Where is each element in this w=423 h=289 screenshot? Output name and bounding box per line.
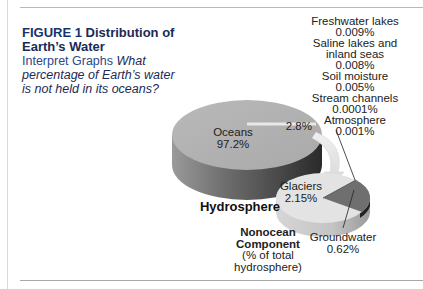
groundwater-label: Groundwater 0.62% (305, 232, 381, 255)
oceans-value: 97.2% (208, 139, 258, 151)
groundwater-name: Groundwater (305, 232, 381, 244)
groundwater-value: 0.62% (305, 244, 381, 256)
minor-components-legend: Freshwater lakes 0.009% Saline lakes and… (300, 16, 410, 137)
nonocean-line1: Nonocean (228, 227, 308, 239)
oceans-label: Oceans 97.2% (208, 127, 258, 150)
glaciers-label: Glaciers 2.15% (276, 181, 326, 204)
atmosphere-value: 0.001% (300, 126, 410, 137)
hydrosphere-label: Hydrosphere (190, 201, 290, 213)
nonocean-component-label: Nonocean Component (% of total hydrosphe… (228, 227, 308, 273)
glaciers-name: Glaciers (276, 181, 326, 193)
nonocean-line4: hydrosphere) (228, 262, 308, 274)
nonocean-line3: (% of total (228, 250, 308, 262)
glaciers-value: 2.15% (276, 193, 326, 205)
oceans-name: Oceans (208, 127, 258, 139)
